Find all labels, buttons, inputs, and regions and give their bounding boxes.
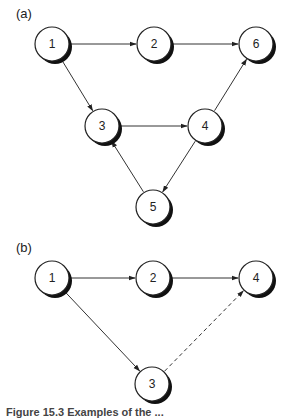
svg-text:3: 3 <box>149 377 156 391</box>
edge-4-to-6 <box>215 59 247 110</box>
node-3: 3 <box>135 367 172 404</box>
node-5: 5 <box>136 190 173 227</box>
figure-caption: Figure 15.3 Examples of the ... <box>6 406 164 418</box>
svg-text:2: 2 <box>151 37 158 51</box>
svg-text:3: 3 <box>99 119 106 133</box>
node-1: 1 <box>35 261 72 298</box>
node-2: 2 <box>137 27 174 64</box>
svg-text:1: 1 <box>49 37 56 51</box>
node-2: 2 <box>136 261 173 298</box>
node-4: 4 <box>188 109 225 146</box>
edge-1-to-3 <box>61 59 92 110</box>
svg-text:1: 1 <box>49 271 56 285</box>
nodes-layer: 1263451243 <box>35 27 276 404</box>
svg-text:6: 6 <box>253 37 260 51</box>
node-3: 3 <box>85 109 122 146</box>
node-6: 6 <box>239 27 276 64</box>
node-1: 1 <box>35 27 72 64</box>
svg-text:4: 4 <box>202 119 209 133</box>
svg-text:2: 2 <box>150 271 157 285</box>
edge-4-to-5 <box>163 141 196 192</box>
svg-text:5: 5 <box>150 200 157 214</box>
edge-1-to-3 <box>64 291 139 371</box>
edge-5-to-3 <box>112 141 144 192</box>
svg-text:4: 4 <box>253 271 260 285</box>
edge-3-to-4 <box>165 291 244 371</box>
node-4: 4 <box>239 261 276 298</box>
